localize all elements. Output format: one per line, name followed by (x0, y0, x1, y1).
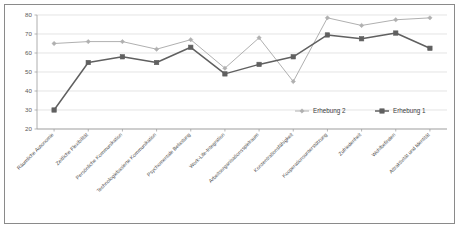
y-axis-tick-label: 60 (25, 49, 32, 56)
gridlines (37, 15, 447, 129)
series-line (54, 33, 430, 110)
y-axis-tick-label: 30 (25, 106, 32, 113)
y-axis-tick-label: 50 (25, 68, 32, 75)
x-axis-category-label: Räumliche Autonomie (15, 131, 54, 170)
data-point-marker (257, 62, 261, 66)
x-axis-category-label: Technologiebasierte Kommunikation (95, 131, 157, 193)
x-axis-category-label: Work-Life-Integration (188, 131, 226, 169)
data-point-marker (291, 55, 295, 59)
data-point-marker (154, 47, 158, 51)
data-point-marker (52, 108, 56, 112)
data-point-marker (428, 16, 432, 20)
legend-item-label: Erhebung 2 (313, 107, 346, 115)
legend-item-label: Erhebung 1 (393, 107, 426, 115)
data-point-marker (359, 23, 363, 27)
data-point-marker (86, 60, 90, 64)
series-lines (54, 18, 430, 110)
data-point-marker (52, 41, 56, 45)
x-axis-category-label: Wohlbefinden (370, 131, 396, 157)
y-axis-tick-label: 70 (25, 30, 32, 37)
x-axis-line (37, 129, 447, 132)
data-point-marker (428, 46, 432, 50)
data-point-marker (120, 55, 124, 59)
data-point-marker (394, 18, 398, 22)
data-point-marker (86, 39, 90, 43)
x-axis-category-label: Zufriedenheit (337, 131, 363, 157)
y-axis-tick-label: 40 (25, 87, 32, 94)
chart-frame: 80706050403020 Räumliche AutonomieZeitli… (4, 4, 455, 224)
legend-swatch-marker (380, 109, 384, 113)
chart-plot-area: 80706050403020 Räumliche AutonomieZeitli… (5, 5, 456, 225)
y-axis-tick-label: 80 (25, 11, 32, 18)
x-axis-category-label: Zeitliche Flexibilität (54, 131, 89, 166)
data-point-marker (325, 16, 329, 20)
y-axis-tick-label: 20 (25, 125, 32, 132)
legend-swatch-marker (300, 109, 304, 113)
data-point-marker (325, 33, 329, 37)
x-axis-category-labels: Räumliche AutonomieZeitliche Flexibilitä… (15, 131, 431, 194)
data-point-marker (120, 39, 124, 43)
data-point-marker (394, 31, 398, 35)
chart-legend: Erhebung 2Erhebung 1 (295, 107, 426, 115)
line-chart: 80706050403020 Räumliche AutonomieZeitli… (5, 5, 456, 225)
y-axis-tick-labels: 80706050403020 (25, 11, 37, 132)
data-point-marker (223, 72, 227, 76)
data-point-marker (189, 45, 193, 49)
data-point-marker (154, 60, 158, 64)
data-point-marker (359, 37, 363, 41)
series-markers (52, 16, 432, 113)
